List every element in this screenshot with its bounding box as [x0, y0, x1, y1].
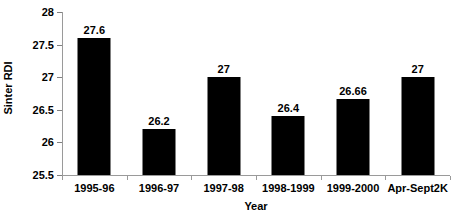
x-axis-tick-mark	[62, 176, 63, 180]
y-axis-title: Sinter RDI	[0, 0, 16, 175]
y-axis-tick-label: 27.5	[33, 39, 54, 51]
x-axis-tick-label: 1995-96	[74, 182, 114, 194]
bar-value-label: 26.4	[278, 102, 299, 114]
bar[interactable]	[207, 77, 240, 175]
bar[interactable]	[272, 116, 305, 175]
x-axis-tick-mark	[256, 176, 257, 180]
y-axis-tick-mark	[57, 12, 62, 13]
bar-value-label: 27.6	[84, 24, 105, 36]
bar-slot: 26.4	[256, 12, 321, 175]
plot-area: 27.626.22726.426.6627	[62, 12, 450, 175]
bar-value-label: 27	[218, 63, 230, 75]
bar-value-label: 27	[412, 63, 424, 75]
x-axis-tick-labels: 1995-961996-971997-981998-19991999-2000A…	[62, 182, 450, 198]
x-axis-tick-mark	[450, 176, 451, 180]
y-axis-tick-label: 26	[42, 136, 54, 148]
x-axis-tick-label: 1999-2000	[327, 182, 380, 194]
bar-slot: 27.6	[62, 12, 127, 175]
y-axis-title-text: Sinter RDI	[2, 61, 14, 114]
bar-slot: 26.66	[321, 12, 386, 175]
y-axis-tick-label: 28	[42, 6, 54, 18]
bar[interactable]	[142, 129, 175, 175]
x-axis-title: Year	[62, 200, 450, 212]
x-axis-tick-label: Apr-Sept2K	[387, 182, 448, 194]
x-axis-tick-mark	[191, 176, 192, 180]
y-axis-tick-label: 26.5	[33, 104, 54, 116]
bar[interactable]	[336, 99, 369, 175]
x-axis-tick-label: 1997-98	[203, 182, 243, 194]
y-axis-tick-mark	[57, 110, 62, 111]
bar-value-label: 26.66	[339, 85, 367, 97]
bar-chart: Sinter RDI 2827.52726.52625.5 27.626.227…	[0, 0, 458, 221]
bar-value-label: 26.2	[148, 115, 169, 127]
x-axis-tick-mark	[321, 176, 322, 180]
bar-slot: 27	[191, 12, 256, 175]
bar-slot: 26.2	[127, 12, 192, 175]
bar[interactable]	[401, 77, 434, 175]
y-axis-tick-mark	[57, 45, 62, 46]
x-axis-tick-mark	[385, 176, 386, 180]
x-axis-tick-mark	[127, 176, 128, 180]
y-axis-tick-mark	[57, 77, 62, 78]
y-axis-tick-mark	[57, 142, 62, 143]
bar[interactable]	[78, 38, 111, 175]
x-axis-tick-label: 1996-97	[139, 182, 179, 194]
bar-slot: 27	[385, 12, 450, 175]
y-axis-tick-label: 27	[42, 71, 54, 83]
x-axis-tick-label: 1998-1999	[262, 182, 315, 194]
y-axis-tick-labels: 2827.52726.52625.5	[16, 12, 58, 175]
y-axis-tick-label: 25.5	[33, 169, 54, 181]
